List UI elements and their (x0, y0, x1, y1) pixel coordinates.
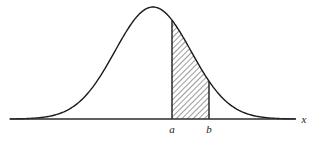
tick-label-a: a (169, 123, 175, 135)
normal-density-curve (10, 7, 295, 119)
normal-curve-figure: a b x (0, 0, 315, 146)
hatched-area (172, 20, 209, 119)
x-axis-label: x (301, 113, 307, 125)
tick-label-b: b (206, 123, 212, 135)
shaded-area-group (172, 20, 209, 119)
figure-canvas: a b x (0, 0, 315, 146)
